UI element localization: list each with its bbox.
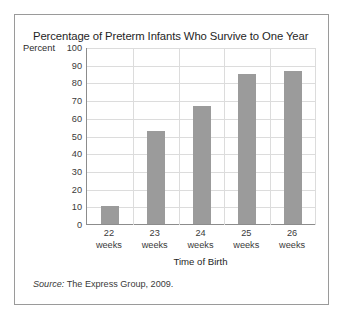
gridline-horizontal (87, 83, 316, 84)
x-tick-number: 24 (178, 228, 224, 240)
gridline-vertical (315, 48, 316, 225)
gridline-horizontal (87, 66, 316, 67)
figure-frame: Percentage of Preterm Infants Who Surviv… (14, 14, 329, 305)
x-tick-label: 25 weeks (223, 228, 269, 251)
gridline-horizontal (87, 48, 316, 49)
bar-24-weeks (193, 106, 211, 224)
x-tick-label: 23 weeks (132, 228, 178, 251)
x-tick-number: 26 (269, 228, 315, 240)
y-tick-label: 20 (56, 186, 82, 195)
x-tick-number: 22 (86, 228, 132, 240)
y-tick-label: 10 (56, 203, 82, 212)
plot-area (86, 48, 315, 225)
source-text: The Express Group, 2009. (64, 279, 173, 289)
x-axis-tick-labels: 22 weeks 23 weeks 24 weeks 25 weeks 26 w… (86, 228, 315, 258)
y-axis-title: Percent (23, 44, 55, 53)
y-tick-label: 0 (56, 221, 82, 230)
y-tick-label: 100 (56, 44, 82, 53)
x-tick-label: 22 weeks (86, 228, 132, 251)
x-tick-label: 26 weeks (269, 228, 315, 251)
gridline-vertical (224, 48, 225, 225)
bar-25-weeks (238, 74, 256, 224)
x-tick-number: 23 (132, 228, 178, 240)
bar-23-weeks (147, 131, 165, 224)
y-tick-label: 80 (56, 79, 82, 88)
gridline-vertical (179, 48, 180, 225)
x-tick-unit: weeks (178, 240, 224, 252)
y-tick-label: 50 (56, 133, 82, 142)
gridline-vertical (270, 48, 271, 225)
source-label: Source: (33, 279, 64, 289)
source-note: Source: The Express Group, 2009. (33, 279, 173, 289)
y-axis-tick-labels: 100 90 80 70 60 50 40 30 20 10 0 (54, 48, 82, 225)
chart-plot-wrapper: Percent 100 90 80 70 60 50 40 30 20 10 0 (15, 15, 330, 306)
x-tick-unit: weeks (269, 240, 315, 252)
x-tick-number: 25 (223, 228, 269, 240)
x-tick-unit: weeks (223, 240, 269, 252)
gridline-vertical (133, 48, 134, 225)
x-tick-unit: weeks (86, 240, 132, 252)
y-tick-label: 70 (56, 97, 82, 106)
bar-26-weeks (284, 71, 302, 224)
y-tick-label: 40 (56, 150, 82, 159)
gridline-horizontal (87, 101, 316, 102)
x-axis-title: Time of Birth (86, 256, 315, 267)
x-tick-unit: weeks (132, 240, 178, 252)
x-tick-label: 24 weeks (178, 228, 224, 251)
y-tick-label: 30 (56, 168, 82, 177)
y-tick-label: 60 (56, 115, 82, 124)
bar-22-weeks (101, 206, 119, 224)
y-tick-label: 90 (56, 62, 82, 71)
